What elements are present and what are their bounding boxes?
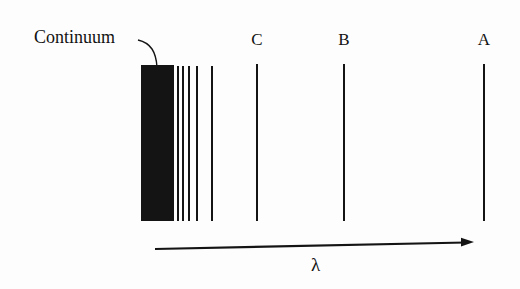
- axis-arrow-shaft: [155, 243, 466, 250]
- wavelength-axis: [0, 0, 520, 289]
- wavelength-symbol-label: λ: [311, 255, 320, 274]
- axis-arrowhead-icon: [461, 238, 474, 247]
- spectral-series-figure: Continuum CBA λ: [0, 0, 520, 289]
